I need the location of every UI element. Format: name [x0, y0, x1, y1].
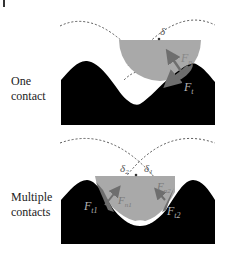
delta-label: δ: [160, 25, 166, 37]
delta-2-label: δ2: [120, 162, 129, 176]
label-line-1: Multiple: [11, 190, 52, 205]
label-line-2: contact: [11, 89, 46, 104]
dotted-arc-right: [125, 138, 215, 178]
dotted-arc-left: [60, 138, 155, 178]
gap: [130, 220, 150, 224]
label-line-1: One: [11, 74, 46, 89]
arc-intersection-dot: [135, 174, 138, 177]
panel-multiple-contacts: δ2 δ1 Fn1 Fn2 Ft1 Ft2: [60, 138, 215, 244]
panel-label-one-contact: One contact: [11, 74, 46, 104]
panel-label-multiple-contacts: Multiple contacts: [11, 190, 52, 220]
delta-1-label: δ1: [144, 162, 153, 176]
label-line-2: contacts: [11, 205, 52, 220]
panel-one-contact: δ Fn Ft: [60, 20, 215, 125]
arc-intersection-dot: [158, 38, 161, 41]
diagram-canvas: δ Fn Ft δ2 δ1 Fn1: [0, 0, 230, 259]
